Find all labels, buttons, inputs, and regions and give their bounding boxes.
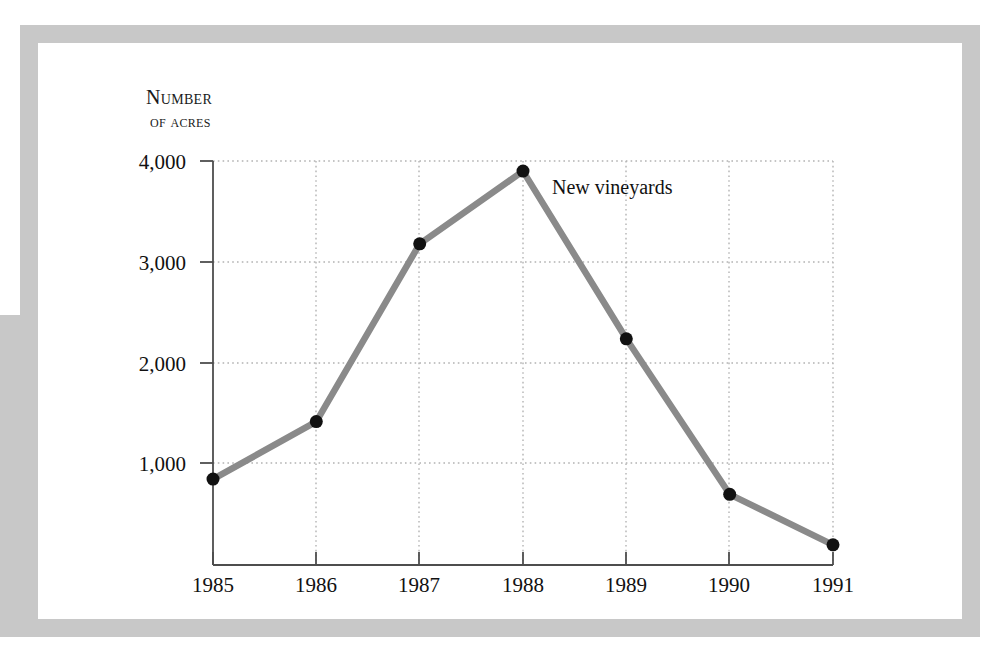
horizontal-gridlines xyxy=(213,161,833,463)
page-sheet: Number of acres 4,000 3,000 2,000 1,000 … xyxy=(0,0,990,666)
line-chart: Number of acres 4,000 3,000 2,000 1,000 … xyxy=(0,0,990,666)
chart-plot-area xyxy=(0,0,990,666)
data-point-1991 xyxy=(827,538,840,551)
data-point-1986 xyxy=(310,415,323,428)
x-axis-ticks xyxy=(213,552,833,565)
data-point-1990 xyxy=(723,488,736,501)
data-point-1987 xyxy=(413,237,426,250)
data-point-1989 xyxy=(620,332,633,345)
data-point-1985 xyxy=(207,473,220,486)
data-point-1988 xyxy=(517,165,530,178)
y-axis-ticks xyxy=(200,161,213,463)
